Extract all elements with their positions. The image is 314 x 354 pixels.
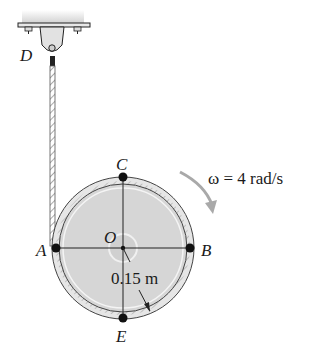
pulley-diagram: D C O A B E 0.15 m ω = 4 rad/s — [0, 0, 314, 354]
label-C: C — [116, 155, 128, 174]
radius-label: 0.15 m — [111, 269, 158, 288]
point-A — [52, 244, 61, 253]
label-E: E — [115, 327, 127, 346]
point-E — [119, 314, 128, 323]
label-A: A — [35, 241, 47, 260]
pin-D — [49, 45, 55, 51]
bolt-left-icon — [25, 27, 32, 34]
label-B: B — [201, 241, 212, 260]
bolt-right-icon — [74, 27, 81, 34]
rope — [50, 56, 55, 246]
point-B — [186, 244, 195, 253]
disk — [52, 177, 194, 319]
label-D: D — [19, 46, 33, 65]
omega-label: ω = 4 rad/s — [208, 169, 283, 188]
label-O: O — [104, 228, 116, 247]
